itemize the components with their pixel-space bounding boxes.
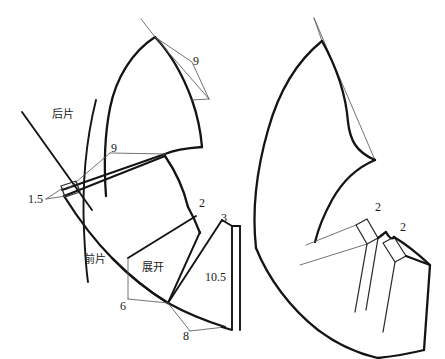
right-fan-line-5 xyxy=(383,262,395,332)
label-spread: 展开 xyxy=(142,261,164,274)
right-bottom-hem-arc xyxy=(378,350,424,358)
right-outer-straight-edge xyxy=(406,256,430,350)
dim-mid-dart-9: 9 xyxy=(111,141,117,155)
top-dart-leader xyxy=(155,37,209,99)
dim-notch-upper-2: 2 xyxy=(199,196,205,210)
right-upper-right-edge xyxy=(394,237,430,265)
right-fan-line-3 xyxy=(355,244,367,312)
spread-radial-line-2 xyxy=(168,232,200,303)
label-back-piece: 后片 xyxy=(52,108,74,121)
spread-radial-line-1 xyxy=(128,216,196,258)
dim-lower-right-8: 8 xyxy=(183,329,189,343)
dim-side-height-10-5: 10.5 xyxy=(205,270,226,284)
right-body-outer-curve xyxy=(255,41,323,248)
right-fan-line-4 xyxy=(366,238,378,310)
left-figure-group: 后片 前片 展开 9 9 1.5 2 3 10.5 6 8 xyxy=(22,19,240,343)
right-fan-line-1 xyxy=(306,225,356,245)
right-dart-2 xyxy=(383,237,406,262)
top-dart-closing-line xyxy=(192,99,209,100)
dim-right-dart-2-2: 2 xyxy=(400,220,406,234)
dim-right-dart-1-2: 2 xyxy=(375,200,381,214)
pattern-drawing: 后片 前片 展开 9 9 1.5 2 3 10.5 6 8 xyxy=(0,0,445,359)
dim-lower-left-6: 6 xyxy=(120,299,126,313)
label-front-piece: 前片 xyxy=(84,252,106,266)
left-lower-hem-arc xyxy=(168,303,225,327)
dim-top-dart-9: 9 xyxy=(193,54,199,68)
dim-notch-right-3: 3 xyxy=(221,211,227,225)
left-body-sector-curve xyxy=(165,156,188,207)
right-dart-1 xyxy=(356,219,378,244)
spread-radial-line-3 xyxy=(168,220,222,303)
left-body-lower-left-edge xyxy=(64,196,168,303)
right-body-lower-outer-arc xyxy=(256,248,378,358)
right-top-to-notch-guide xyxy=(314,18,375,160)
right-fan-line-2 xyxy=(300,244,367,265)
top-guide-diagonal xyxy=(141,19,155,37)
left-body-armhole-curve xyxy=(165,147,202,154)
pattern-diagram-canvas: 后片 前片 展开 9 9 1.5 2 3 10.5 6 8 xyxy=(0,0,445,359)
dim-slit-width-1-5: 1.5 xyxy=(28,192,43,206)
right-inner-edge-between-darts xyxy=(378,232,394,238)
right-figure-group: 2 2 xyxy=(255,18,431,358)
